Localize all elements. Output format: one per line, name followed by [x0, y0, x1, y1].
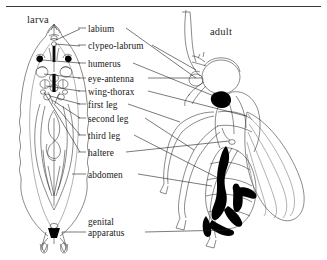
label-eye-antenna: eye-antenna	[88, 74, 134, 84]
label-wing-thorax: wing-thorax	[88, 87, 135, 97]
label-apparatus: apparatus	[88, 228, 125, 238]
label-genital: genital	[88, 217, 114, 227]
label-haltere: haltere	[88, 148, 114, 158]
figure-canvas: larva adult	[0, 0, 327, 260]
label-third-leg: third leg	[88, 131, 120, 141]
label-humerus: humerus	[88, 59, 121, 69]
label-clypeo-labrum: clypeo-labrum	[88, 41, 144, 51]
label-labium: labium	[88, 24, 114, 34]
leader-lines	[0, 0, 327, 260]
label-abdomen: abdomen	[88, 170, 123, 180]
label-second-leg: second leg	[88, 114, 129, 124]
label-first-leg: first leg	[88, 100, 118, 110]
